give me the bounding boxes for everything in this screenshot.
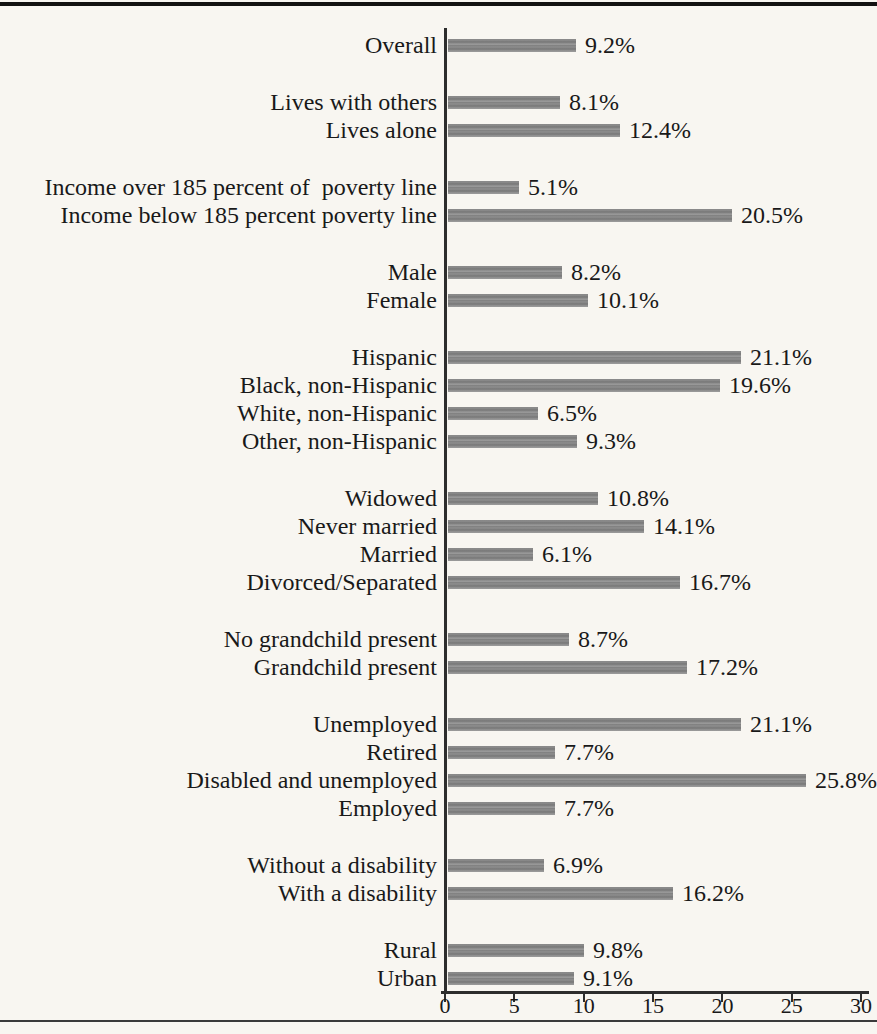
bar (448, 407, 538, 420)
x-axis-tick-label: 20 (711, 995, 733, 1017)
value-label: 8.2% (571, 258, 621, 286)
chart-group-income: Income over 185 percent of poverty line5… (0, 173, 877, 229)
bar (448, 39, 576, 52)
bar-row: Female10.1% (0, 286, 877, 314)
x-axis-tick-label: 25 (781, 995, 803, 1017)
bar-track: 9.3% (441, 427, 877, 455)
x-axis-tick-label: 5 (509, 995, 520, 1017)
value-label: 20.5% (741, 201, 803, 229)
x-axis-tick-label: 30 (850, 995, 872, 1017)
value-label: 16.2% (682, 879, 744, 907)
bar-row: Unemployed21.1% (0, 710, 877, 738)
bar-row: Hispanic21.1% (0, 343, 877, 371)
bar (448, 379, 720, 392)
bar (448, 774, 806, 787)
bar-track: 12.4% (441, 116, 877, 144)
bar (448, 209, 732, 222)
bar-track: 6.5% (441, 399, 877, 427)
category-label: Hispanic (0, 343, 441, 371)
category-label: Widowed (0, 484, 441, 512)
bar-track: 9.8% (441, 936, 877, 964)
bar-row: No grandchild present8.7% (0, 625, 877, 653)
value-label: 21.1% (750, 343, 812, 371)
value-label: 16.7% (689, 568, 751, 596)
bar-track: 8.2% (441, 258, 877, 286)
bar (448, 859, 544, 872)
chart-group-urbanicity: Rural9.8%Urban9.1% (0, 936, 877, 992)
category-label: Grandchild present (0, 653, 441, 681)
bar-row: Income below 185 percent poverty line20.… (0, 201, 877, 229)
value-label: 9.8% (593, 936, 643, 964)
bar (448, 718, 741, 731)
bar-row: Income over 185 percent of poverty line5… (0, 173, 877, 201)
category-label: Unemployed (0, 710, 441, 738)
category-label: Black, non-Hispanic (0, 371, 441, 399)
bar (448, 661, 687, 674)
value-label: 19.6% (729, 371, 791, 399)
bar-track: 19.6% (441, 371, 877, 399)
bar-track: 21.1% (441, 343, 877, 371)
bar-row: Male8.2% (0, 258, 877, 286)
value-label: 10.8% (607, 484, 669, 512)
bar-row: Grandchild present17.2% (0, 653, 877, 681)
bar (448, 887, 673, 900)
x-axis-tick-label: 10 (573, 995, 595, 1017)
bar-track: 9.1% (441, 964, 877, 992)
bar-row: With a disability16.2% (0, 879, 877, 907)
category-label: No grandchild present (0, 625, 441, 653)
bar (448, 633, 569, 646)
bar (448, 435, 577, 448)
value-label: 6.9% (553, 851, 603, 879)
bar (448, 802, 555, 815)
bar-track: 20.5% (441, 201, 877, 229)
bar-track: 16.2% (441, 879, 877, 907)
value-label: 9.1% (583, 964, 633, 992)
value-label: 14.1% (653, 512, 715, 540)
category-label: Married (0, 540, 441, 568)
category-label: Rural (0, 936, 441, 964)
bar (448, 96, 560, 109)
bar-track: 25.8% (441, 766, 877, 794)
bar-track: 5.1% (441, 173, 877, 201)
value-label: 7.7% (564, 738, 614, 766)
category-label: Without a disability (0, 851, 441, 879)
value-label: 25.8% (815, 766, 877, 794)
bar-track: 10.1% (441, 286, 877, 314)
bar (448, 972, 574, 985)
bar-row: Overall9.2% (0, 31, 877, 59)
top-rule (0, 2, 877, 6)
bottom-rule (0, 1020, 877, 1022)
bar (448, 576, 680, 589)
category-label: Urban (0, 964, 441, 992)
category-label: Disabled and unemployed (0, 766, 441, 794)
category-label: Overall (0, 31, 441, 59)
bar (448, 181, 519, 194)
category-label: Never married (0, 512, 441, 540)
bar-row: Rural9.8% (0, 936, 877, 964)
chart-groups: Overall9.2%Lives with others8.1%Lives al… (0, 31, 877, 992)
bar-track: 6.1% (441, 540, 877, 568)
bar (448, 520, 644, 533)
value-label: 10.1% (597, 286, 659, 314)
bar-row: Black, non-Hispanic19.6% (0, 371, 877, 399)
chart-group-employment: Unemployed21.1%Retired7.7%Disabled and u… (0, 710, 877, 822)
value-label: 9.2% (585, 31, 635, 59)
category-label: White, non-Hispanic (0, 399, 441, 427)
category-label: Lives with others (0, 88, 441, 116)
value-label: 17.2% (696, 653, 758, 681)
x-axis-tick-label: 0 (440, 995, 451, 1017)
bar (448, 746, 555, 759)
bar-track: 17.2% (441, 653, 877, 681)
bar-track: 10.8% (441, 484, 877, 512)
category-label: Male (0, 258, 441, 286)
value-label: 21.1% (750, 710, 812, 738)
value-label: 9.3% (586, 427, 636, 455)
bar-track: 6.9% (441, 851, 877, 879)
bar-track: 14.1% (441, 512, 877, 540)
bar-track: 7.7% (441, 738, 877, 766)
value-label: 5.1% (528, 173, 578, 201)
value-label: 12.4% (629, 116, 691, 144)
bar (448, 351, 741, 364)
chart-group-race-ethnicity: Hispanic21.1%Black, non-Hispanic19.6%Whi… (0, 343, 877, 455)
bar-row: Divorced/Separated16.7% (0, 568, 877, 596)
